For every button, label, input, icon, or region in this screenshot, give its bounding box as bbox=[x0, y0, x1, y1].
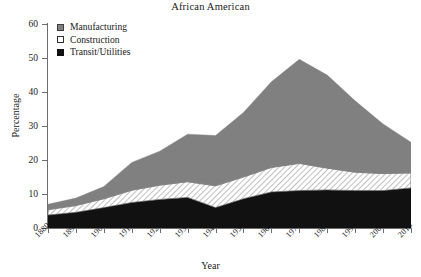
legend-item-transit-utilities: Transit/Utilities bbox=[57, 46, 130, 59]
legend-label-manufacturing: Manufacturing bbox=[70, 21, 127, 34]
construction-swatch-icon bbox=[57, 36, 64, 43]
legend-item-construction: Construction bbox=[57, 34, 130, 47]
y-tick-50 bbox=[42, 58, 47, 59]
chart-legend: Manufacturing Construction Transit/Utili… bbox=[57, 21, 130, 59]
y-tick-10 bbox=[42, 194, 47, 195]
y-tick-20 bbox=[42, 160, 47, 161]
legend-item-manufacturing: Manufacturing bbox=[57, 21, 130, 34]
transit-utilities-swatch-icon bbox=[57, 49, 64, 56]
y-tick-60 bbox=[42, 24, 47, 25]
x-axis-title: Year bbox=[0, 260, 421, 271]
chart-container: African American 0102030405060 188018901… bbox=[0, 0, 421, 277]
legend-label-transit-utilities: Transit/Utilities bbox=[70, 46, 130, 59]
legend-label-construction: Construction bbox=[70, 34, 120, 47]
y-tick-label-60: 60 bbox=[14, 19, 38, 29]
y-tick-30 bbox=[42, 126, 47, 127]
y-tick-label-10: 10 bbox=[14, 189, 38, 199]
manufacturing-swatch-icon bbox=[57, 24, 64, 31]
chart-title: African American bbox=[0, 1, 421, 12]
y-axis-title: Percentage bbox=[10, 61, 21, 171]
y-tick-40 bbox=[42, 92, 47, 93]
